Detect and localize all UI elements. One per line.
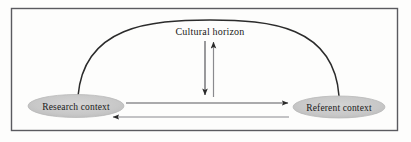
referent-context-label: Referent context	[306, 103, 372, 113]
node-research-context[interactable]: Research context	[28, 95, 124, 118]
cultural-horizon-label: Cultural horizon	[175, 26, 244, 37]
research-context-label: Research context	[42, 102, 110, 112]
node-referent-context[interactable]: Referent context	[293, 96, 385, 118]
diagram-canvas: Research context Referent context Cultur…	[0, 0, 411, 142]
figure-svg: Research context Referent context Cultur…	[0, 0, 411, 142]
